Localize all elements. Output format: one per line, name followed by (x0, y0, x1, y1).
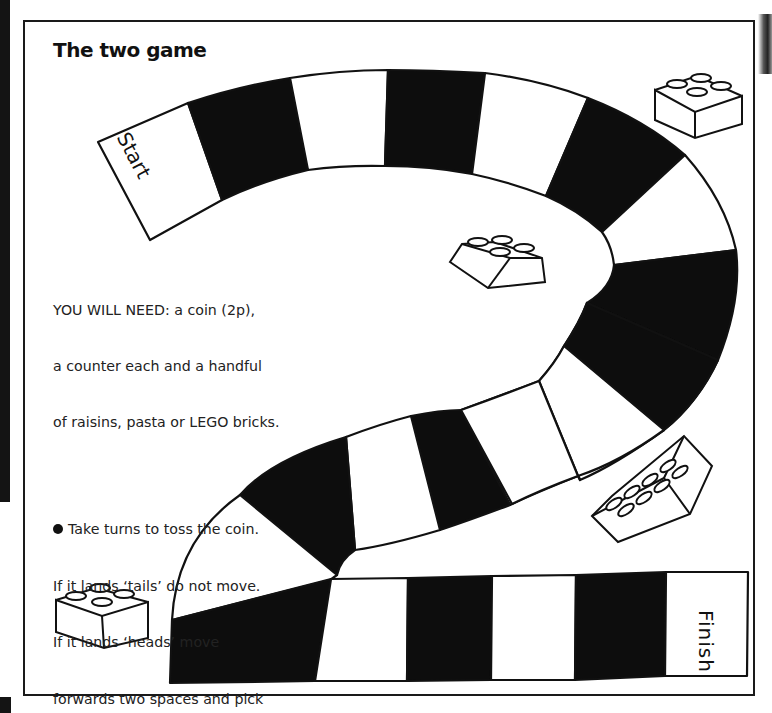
lego-brick-icon (655, 74, 742, 138)
rule-line: If it lands ‘tails’ do not move. (53, 577, 280, 596)
board-square[interactable] (315, 578, 408, 681)
lego-brick-icon (450, 236, 545, 288)
board-square[interactable] (407, 576, 492, 681)
board-square[interactable] (290, 70, 388, 170)
finish-label: Finish (694, 610, 718, 673)
you-will-need-line: of raisins, pasta or LEGO bricks. (53, 413, 280, 432)
you-will-need-line: a counter each and a handful (53, 357, 280, 376)
board-square[interactable] (385, 70, 485, 174)
rule-line: forwards two spaces and pick (53, 690, 280, 709)
instructions: YOU WILL NEED: a coin (2p), a counter ea… (53, 263, 280, 713)
you-will-need-line: YOU WILL NEED: a coin (2p), (53, 301, 280, 320)
board-square[interactable] (491, 575, 576, 680)
rule-line: Take turns to toss the coin. (68, 521, 259, 537)
board-square[interactable] (575, 572, 666, 680)
rule-line: If it lands ‘heads’ move (53, 633, 280, 652)
page-title: The two game (53, 38, 206, 62)
bullet-icon (53, 524, 63, 534)
